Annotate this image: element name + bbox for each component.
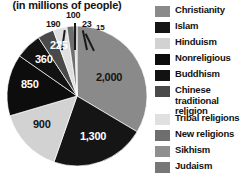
legend-item-nonreligious[interactable]: Nonreligious	[155, 53, 250, 67]
legend-item-judaism[interactable]: Judaism	[155, 161, 250, 175]
legend-item-label: Nonreligious	[175, 53, 231, 64]
legend-swatch-icon	[155, 146, 170, 157]
legend-item-label: Tribal religions	[175, 113, 239, 124]
legend-item-label: Christianity	[175, 5, 225, 16]
slice-value-christianity: 2,000	[96, 72, 122, 83]
legend-swatch-icon	[155, 70, 170, 81]
slice-value-islam: 1,300	[80, 131, 106, 142]
slice-value-chinese: 225	[50, 40, 67, 51]
legend-item-buddhism[interactable]: Buddhism	[155, 69, 250, 83]
slice-value-sikhism: 23	[82, 19, 91, 30]
legend-item-label: Judaism	[175, 161, 212, 172]
legend-swatch-icon	[155, 130, 170, 141]
pie-svg	[0, 14, 152, 194]
slice-value-judaism: 15	[96, 22, 104, 33]
legend-swatch-icon	[155, 162, 170, 173]
legend-swatch-icon	[155, 6, 170, 17]
legend-swatch-icon	[155, 54, 170, 65]
slice-value-buddhism: 360	[35, 54, 52, 65]
chart-figure: (in millions of people) 2,000 1,300 900 …	[0, 0, 250, 194]
legend-swatch-icon	[155, 22, 170, 33]
leader-line-new	[74, 23, 76, 50]
legend-item-christianity[interactable]: Christianity	[155, 5, 250, 19]
legend-item-label: Islam	[175, 21, 198, 32]
slice-value-tribal: 190	[46, 19, 60, 30]
slice-value-nonreligious: 850	[21, 79, 38, 90]
legend-item-islam[interactable]: Islam	[155, 21, 250, 35]
legend-swatch-icon	[155, 86, 170, 97]
chart-legend: ChristianityIslamHinduismNonreligiousBud…	[155, 5, 250, 177]
legend-item-label: Buddhism	[175, 69, 220, 80]
legend-swatch-icon	[155, 38, 170, 49]
slice-value-hinduism: 900	[33, 119, 50, 130]
legend-item-chinese-traditional-religion[interactable]: Chinese traditional religion	[155, 85, 250, 111]
slice-value-new: 100	[66, 10, 80, 21]
legend-swatch-icon	[155, 114, 170, 125]
legend-item-label: Hinduism	[175, 37, 217, 48]
legend-item-sikhism[interactable]: Sikhism	[155, 145, 250, 159]
legend-item-label: Sikhism	[175, 145, 210, 156]
legend-item-label: New religions	[175, 129, 234, 140]
legend-item-hinduism[interactable]: Hinduism	[155, 37, 250, 51]
pie-chart: 2,000 1,300 900 850 360 225 190 100 23 1…	[0, 14, 152, 194]
legend-item-new-religions[interactable]: New religions	[155, 129, 250, 143]
legend-item-tribal-religions[interactable]: Tribal religions	[155, 113, 250, 127]
pie-slices	[7, 26, 147, 166]
